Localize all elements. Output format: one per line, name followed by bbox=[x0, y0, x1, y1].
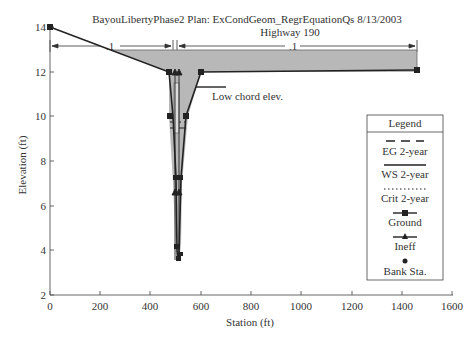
legend-ws-label: WS 2-year bbox=[381, 168, 429, 180]
legend: Legend EG 2-year WS 2-year Crit 2-year G… bbox=[367, 115, 443, 280]
svg-text:14: 14 bbox=[35, 21, 47, 33]
y-axis-label: Elevation (ft) bbox=[16, 135, 29, 194]
x-axis-label: Station (ft) bbox=[226, 316, 274, 329]
svg-text:1600: 1600 bbox=[441, 300, 464, 312]
svg-text:8: 8 bbox=[41, 155, 47, 167]
x-tick-labels: 0 200 400 600 800 1000 1200 1400 1600 bbox=[47, 300, 463, 312]
low-chord-label: Low chord elev. bbox=[212, 90, 283, 102]
svg-text:6: 6 bbox=[41, 200, 47, 212]
svg-text:200: 200 bbox=[92, 300, 109, 312]
cross-section-chart: BayouLibertyPhase2 Plan: ExCondGeom_Regr… bbox=[0, 0, 465, 343]
svg-text:1000: 1000 bbox=[290, 300, 313, 312]
svg-text:400: 400 bbox=[142, 300, 159, 312]
svg-text:1200: 1200 bbox=[341, 300, 364, 312]
svg-text:10: 10 bbox=[35, 110, 47, 122]
legend-ground-label: Ground bbox=[388, 216, 422, 228]
svg-text:12: 12 bbox=[35, 66, 46, 78]
legend-bank-marker bbox=[403, 259, 408, 264]
legend-title: Legend bbox=[389, 117, 422, 129]
legend-bank-label: Bank Sta. bbox=[384, 265, 427, 277]
legend-eg-label: EG 2-year bbox=[382, 145, 428, 157]
svg-text:2: 2 bbox=[41, 289, 47, 301]
legend-ineff-label: Ineff bbox=[394, 240, 416, 252]
svg-text:800: 800 bbox=[243, 300, 260, 312]
chart-title: BayouLibertyPhase2 Plan: ExCondGeom_Regr… bbox=[92, 13, 402, 25]
y-tick-labels: 2 4 6 8 10 12 14 bbox=[35, 21, 47, 301]
svg-text:0: 0 bbox=[47, 300, 53, 312]
legend-crit-label: Crit 2-year bbox=[381, 192, 429, 204]
chart-subtitle: Highway 190 bbox=[260, 26, 320, 38]
svg-text:4: 4 bbox=[41, 244, 47, 256]
svg-text:1400: 1400 bbox=[391, 300, 414, 312]
svg-text:600: 600 bbox=[193, 300, 210, 312]
